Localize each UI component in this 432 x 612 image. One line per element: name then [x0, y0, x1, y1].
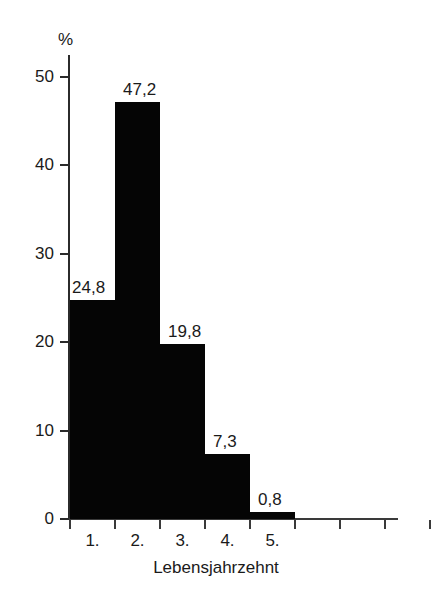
x-axis-tick: [294, 520, 296, 529]
y-axis-tick-label: 10: [0, 422, 54, 439]
x-axis-tick: [249, 520, 251, 529]
y-axis-tick-label: 50: [0, 68, 54, 85]
x-axis-tick: [384, 520, 386, 529]
x-axis-tick: [339, 520, 341, 529]
x-axis-title: Lebensjahrzehnt: [0, 558, 432, 578]
y-axis-tick-label: 40: [0, 156, 54, 173]
bar: [160, 344, 205, 519]
y-axis-tick-label-text: 40: [0, 156, 54, 173]
bar-value-label: 7,3: [213, 433, 237, 451]
x-axis-tick: [429, 520, 431, 529]
y-axis-tick-label-text: 30: [0, 245, 54, 262]
bar-value-label: 19,8: [168, 323, 201, 341]
y-axis-tick-label-text: 0: [0, 510, 54, 527]
chart-figure: % 01020304050 24,847,219,87,30,8 1.2.3.4…: [0, 0, 432, 612]
y-axis-tick: [60, 430, 69, 432]
y-axis-tick-label-text: 20: [0, 333, 54, 350]
y-axis-tick-label-text: 50: [0, 68, 54, 85]
x-axis-tick: [204, 520, 206, 529]
y-axis-tick: [60, 341, 69, 343]
y-axis-tick: [60, 253, 69, 255]
bar: [70, 300, 115, 519]
bar: [250, 512, 295, 519]
y-axis-tick-label: 30: [0, 245, 54, 262]
x-axis-tick: [159, 520, 161, 529]
bars-layer: [70, 77, 398, 519]
y-axis-tick: [60, 76, 69, 78]
y-axis-tick-label: 20: [0, 333, 54, 350]
x-axis-tick-label: 5.: [243, 531, 303, 551]
bar: [205, 454, 250, 519]
bar-value-label: 47,2: [123, 81, 156, 99]
y-axis-tick-label-text: 10: [0, 422, 54, 439]
bar-value-label: 0,8: [258, 491, 282, 509]
bar: [115, 102, 160, 519]
y-axis-tick: [60, 164, 69, 166]
y-axis-tick: [60, 518, 69, 520]
y-axis-unit-label: %: [58, 31, 73, 49]
x-axis-tick: [114, 520, 116, 529]
bar-value-label: 24,8: [72, 279, 105, 297]
y-axis-tick-label: 0: [0, 510, 54, 527]
x-axis-tick: [69, 520, 71, 529]
